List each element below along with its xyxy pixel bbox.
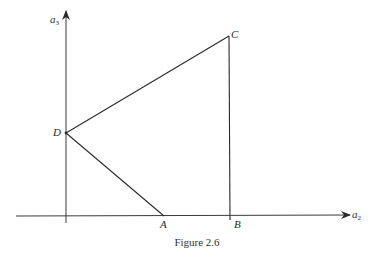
point-label-b: B (234, 219, 241, 230)
segment-cb (229, 36, 230, 220)
vertical-axis-subscript: 3 (56, 19, 60, 27)
point-d-marker (65, 132, 68, 135)
horizontal-axis-label: a2 (352, 209, 361, 222)
vertical-axis-label: a3 (50, 14, 59, 27)
point-label-d: D (53, 127, 61, 138)
figure-caption: Figure 2.6 (0, 236, 376, 248)
segment-dc (66, 36, 229, 133)
segment-da (66, 133, 164, 216)
point-label-c: C (231, 29, 238, 40)
point-label-a: A (160, 219, 167, 230)
horizontal-axis-subscript: 2 (358, 214, 362, 222)
